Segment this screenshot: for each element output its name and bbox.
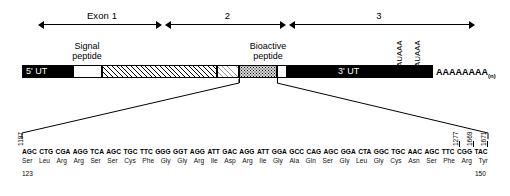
exon-2-arrow-line	[170, 24, 280, 25]
codon: AGC	[106, 148, 121, 155]
amino-acid: Tyr	[478, 157, 487, 164]
amino-acid: Arg	[242, 157, 252, 164]
bioactive-peptide-label: Bioactive peptide	[213, 41, 323, 61]
exon-2-arrowhead-right	[280, 21, 286, 29]
bioactive-peptide-segment	[239, 65, 277, 78]
amino-acid: Cys	[124, 157, 136, 164]
amino-acid: Cys	[390, 157, 402, 164]
codon: GAC	[222, 148, 237, 155]
expansion-lines	[0, 78, 510, 140]
codon: GGA	[272, 148, 287, 155]
codon: GGA	[341, 148, 356, 155]
three-prime-utr-label: 3' UT	[338, 66, 359, 76]
codon: TTC	[442, 148, 455, 155]
exon-1-arrow-line	[43, 24, 156, 25]
nt-number-right-1: 1277	[452, 132, 459, 146]
gene-structure-figure: Exon 1 2 3 Signal peptide Bioactive pept…	[0, 0, 510, 196]
codon: AGC	[324, 148, 339, 155]
signal-peptide-label: Signal peptide	[32, 41, 142, 61]
nt-number-left: 1197	[17, 132, 24, 146]
amino-acid: Gly	[374, 157, 384, 164]
amino-acid: Leu	[356, 157, 367, 164]
exon-map: Exon 1 2 3	[0, 0, 510, 34]
codon: GGC	[374, 148, 389, 155]
amino-acid: Arg	[74, 157, 84, 164]
amino-acid: Gly	[177, 157, 187, 164]
nt-tick-right-1	[459, 141, 460, 147]
codon: ATT	[257, 148, 269, 155]
amino-acid: Gly	[161, 157, 171, 164]
exon-3-arrow-line	[294, 24, 470, 25]
codon: CGA	[56, 148, 71, 155]
amino-acid: Ile	[211, 157, 218, 164]
codon: TAC	[474, 148, 487, 155]
codon: TTC	[140, 148, 153, 155]
exon-3-arrowhead-right	[469, 21, 475, 29]
signal-peptide-segment	[73, 65, 102, 78]
aa-number-right: 150	[475, 170, 486, 177]
three-prime-utr-text: 3' UT	[338, 66, 359, 76]
codon: CGG	[457, 148, 472, 155]
amino-acid: Arg	[194, 157, 204, 164]
bioactive-peptide-label-line2: peptide	[253, 51, 283, 61]
amino-acid: Leu	[39, 157, 50, 164]
three-prime-utr-segment	[287, 65, 433, 78]
amino-acid: Ser	[90, 157, 100, 164]
exon-1-label: Exon 1	[42, 10, 162, 21]
propeptide-hatched-segment	[102, 65, 217, 78]
nt-tick-right-2	[473, 141, 474, 147]
amino-acid: Gly	[273, 157, 283, 164]
amino-acid: Phe	[443, 157, 455, 164]
polyadenylation-signal-1: AAUAAA	[395, 40, 404, 72]
codon: CAG	[306, 148, 321, 155]
codon: AGC	[424, 148, 439, 155]
codon: TGC	[123, 148, 137, 155]
codon: AGG	[190, 148, 205, 155]
exon-3-label: 3	[290, 10, 468, 21]
codon: TGC	[391, 148, 405, 155]
amino-acid: Arg	[462, 157, 472, 164]
amino-acid: Ile	[259, 157, 266, 164]
codon: GGG	[155, 148, 171, 155]
nt-number-right-3: 1671	[480, 132, 487, 146]
amino-acid: Asp	[224, 157, 236, 164]
codon: ATT	[207, 148, 219, 155]
amino-acid: Ser	[426, 157, 436, 164]
five-prime-utr-text: 5' UT	[26, 66, 47, 76]
signal-peptide-label-line2: peptide	[72, 51, 102, 61]
codon: CTG	[39, 148, 53, 155]
propeptide-hatched-fade-segment	[217, 65, 239, 78]
codon: CTA	[358, 148, 371, 155]
poly-a-tail-text: AAAAAAAA	[436, 67, 488, 77]
amino-acid: Asn	[408, 157, 420, 164]
codon: GCC	[289, 148, 304, 155]
amino-acid: Ser	[22, 157, 32, 164]
nt-number-right-2: 1669	[466, 132, 473, 146]
polyadenylation-signal-2: AAUAAA	[413, 40, 422, 72]
sequence-panel: 1197 1277 1669 1671 AGCCTGCGAAGGTCAAGCTG…	[0, 142, 510, 196]
c-terminal-spacer-segment	[277, 65, 287, 78]
codon: GGT	[173, 148, 187, 155]
aa-number-left: 123	[22, 170, 33, 177]
amino-acid-row: SerLeuArgArgSerSerCysPheGlyGlyArgIleAspA…	[0, 157, 510, 164]
amino-acid: Ser	[323, 157, 333, 164]
signal-peptide-label-line1: Signal	[74, 41, 99, 51]
codon-row: AGCCTGCGAAGGTCAAGCTGCTTCGGGGGTAGGATTGACA…	[0, 148, 510, 155]
five-prime-utr-label: 5' UT	[26, 66, 47, 76]
codon: TCA	[90, 148, 104, 155]
amino-acid: Phe	[142, 157, 154, 164]
exon-2-label: 2	[160, 10, 295, 21]
amino-acid: Ala	[289, 157, 299, 164]
exon-1-arrowhead-right	[156, 21, 162, 29]
amino-acid: Ser	[107, 157, 117, 164]
codon: AGC	[22, 148, 37, 155]
bioactive-peptide-label-line1: Bioactive	[250, 41, 287, 51]
codon: AAC	[408, 148, 422, 155]
amino-acid: Arg	[57, 157, 67, 164]
amino-acid: Gly	[339, 157, 349, 164]
codon: AGG	[73, 148, 88, 155]
amino-acid: Gln	[306, 157, 316, 164]
codon: AGG	[239, 148, 254, 155]
nt-tick-right-3	[487, 141, 488, 147]
